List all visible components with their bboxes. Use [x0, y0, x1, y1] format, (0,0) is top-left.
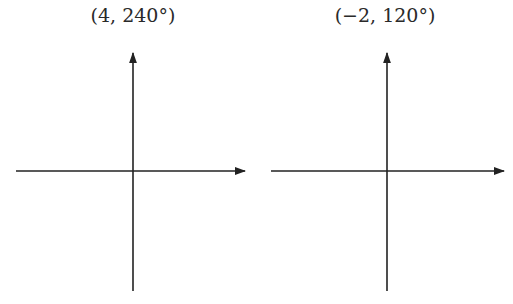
coordinate-axes: [0, 0, 513, 304]
axes-diagram-2: [271, 53, 504, 291]
axes-diagram-1: [16, 53, 245, 291]
